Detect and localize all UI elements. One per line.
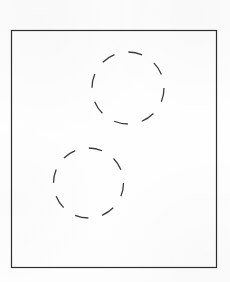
lower-dashed-circle — [54, 148, 124, 218]
figure-drawing — [0, 0, 230, 282]
outer-frame-rectangle — [12, 31, 217, 268]
upper-dashed-circle — [92, 52, 164, 124]
figure-canvas — [0, 0, 230, 282]
